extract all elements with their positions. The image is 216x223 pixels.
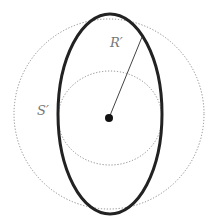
center-dot	[105, 114, 113, 122]
diagram: R′ S′	[0, 0, 216, 223]
diagram-svg	[0, 0, 216, 223]
label-s-prime: S′	[37, 103, 49, 118]
label-r-prime: R′	[110, 35, 123, 50]
